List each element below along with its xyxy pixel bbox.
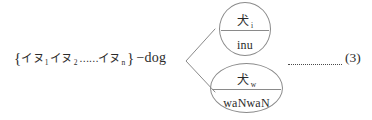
node-inu: 犬i inu (219, 2, 271, 56)
equation-leader-dots (288, 56, 342, 65)
node-wanwan-subscript: w (249, 80, 256, 89)
node-inu-kanji: 犬 (237, 14, 249, 28)
node-wanwan-divider (212, 89, 281, 90)
node-inu-romaji: inu (237, 38, 253, 52)
node-inu-romaji-row: inu (220, 35, 270, 53)
node-inu-divider (221, 30, 269, 31)
node-wanwan-kanji: 犬 (237, 73, 249, 87)
linguistic-diagram: {イヌ1イヌ2……イヌn}−dog 犬i inu 犬w waNwaN (3) (0, 0, 372, 120)
node-wanwan: 犬w waNwaN (210, 63, 283, 113)
node-inu-kanji-row: 犬i (220, 11, 270, 30)
node-wanwan-romaji: waNwaN (223, 96, 270, 110)
node-wanwan-romaji-row: waNwaN (211, 93, 282, 111)
node-wanwan-kanji-row: 犬w (211, 70, 282, 89)
equation-number: (3) (345, 51, 361, 65)
node-inu-subscript: i (249, 21, 253, 30)
